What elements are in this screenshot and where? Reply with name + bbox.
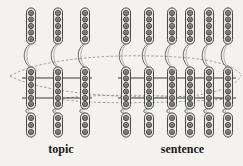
capsule-sentence-c4-middle (205, 67, 214, 109)
node-core (208, 117, 211, 120)
node-core (57, 31, 60, 34)
capsule-sentence-c0-top (122, 8, 131, 44)
node-core (208, 71, 211, 74)
capsule-sentence-c4-top (205, 8, 214, 44)
node-core (208, 97, 211, 100)
node-core (148, 90, 151, 93)
node-core (57, 18, 60, 21)
node-core (208, 84, 211, 87)
node-core (30, 38, 33, 41)
node-core (84, 31, 87, 34)
node-core (208, 124, 211, 127)
node-core (189, 84, 192, 87)
node-core (125, 12, 128, 15)
node-core (189, 97, 192, 100)
node-core (208, 31, 211, 34)
capsule-sentence-c5-top (224, 8, 233, 44)
node-core (84, 38, 87, 41)
node-core (30, 12, 33, 15)
node-core (171, 38, 174, 41)
node-core (148, 71, 151, 74)
node-core (84, 18, 87, 21)
capsule-sentence-c0-middle (122, 67, 131, 109)
node-core (189, 71, 192, 74)
capsule-topic-c1-middle (54, 67, 63, 109)
capsule-topic-c0-bottom (27, 113, 36, 137)
node-core (30, 77, 33, 80)
capsule-topic-c1-top (54, 8, 63, 44)
node-core (227, 12, 230, 15)
node-core (189, 117, 192, 120)
capsule-sentence-c5-middle (224, 67, 233, 109)
node-core (208, 18, 211, 21)
capsule-topic-c2-middle (81, 67, 90, 109)
capsule-sentence-c4-bottom (205, 113, 214, 137)
node-core (84, 71, 87, 74)
node-core (125, 77, 128, 80)
capsule-sentence-c2-bottom (168, 113, 177, 137)
capsule-sentence-c3-middle (186, 67, 195, 109)
node-core (84, 131, 87, 134)
node-core (148, 124, 151, 127)
node-core (171, 71, 174, 74)
capsule-topic-c0-middle (27, 67, 36, 109)
node-core (148, 131, 151, 134)
node-core (148, 25, 151, 28)
node-core (30, 25, 33, 28)
node-core (171, 103, 174, 106)
node-core (227, 97, 230, 100)
node-core (208, 103, 211, 106)
node-core (125, 124, 128, 127)
node-core (189, 38, 192, 41)
node-core (227, 90, 230, 93)
node-core (125, 31, 128, 34)
node-core (57, 97, 60, 100)
node-core (189, 103, 192, 106)
node-core (30, 124, 33, 127)
node-core (125, 71, 128, 74)
node-core (171, 25, 174, 28)
node-core (84, 90, 87, 93)
node-core (125, 103, 128, 106)
node-core (30, 97, 33, 100)
capsule-sentence-c3-top (186, 8, 195, 44)
node-core (227, 31, 230, 34)
capsule-sentence-c2-middle (168, 67, 177, 109)
node-core (84, 77, 87, 80)
node-core (125, 97, 128, 100)
node-core (208, 38, 211, 41)
diagram-canvas: topic sentence (0, 0, 243, 166)
node-core (171, 131, 174, 134)
node-core (227, 18, 230, 21)
node-core (125, 117, 128, 120)
capsule-sentence-c0-bottom (122, 113, 131, 137)
node-core (84, 84, 87, 87)
node-core (208, 90, 211, 93)
node-core (227, 124, 230, 127)
node-core (84, 12, 87, 15)
node-core (208, 77, 211, 80)
node-core (189, 18, 192, 21)
node-core (84, 124, 87, 127)
node-core (125, 131, 128, 134)
capsule-topic-c2-bottom (81, 113, 90, 137)
node-core (125, 38, 128, 41)
node-core (57, 84, 60, 87)
node-core (148, 77, 151, 80)
node-core (171, 124, 174, 127)
node-core (171, 31, 174, 34)
node-core (227, 117, 230, 120)
node-core (189, 25, 192, 28)
node-core (171, 97, 174, 100)
node-core (57, 25, 60, 28)
node-core (148, 12, 151, 15)
node-core (148, 31, 151, 34)
capsule-sentence-c5-bottom (224, 113, 233, 137)
node-core (208, 131, 211, 134)
node-core (57, 117, 60, 120)
node-core (148, 38, 151, 41)
node-core (57, 38, 60, 41)
node-core (171, 84, 174, 87)
capsule-sentence-c3-bottom (186, 113, 195, 137)
node-core (171, 90, 174, 93)
